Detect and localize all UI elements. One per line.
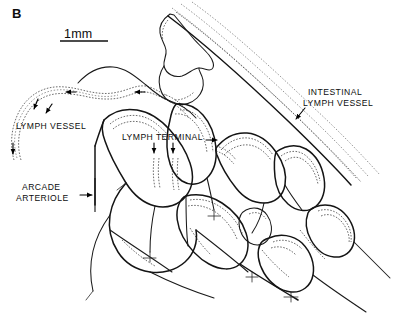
connecting-vessels — [86, 120, 390, 312]
vascular-network-drawing: B 1mm LYMPH VESSEL LYMPH TERMINAL ARCADE… — [0, 0, 395, 316]
network-cell-right-edge — [274, 146, 324, 211]
leader-intestinal-lymph-vessel — [296, 108, 305, 119]
figure-panel-b: B 1mm LYMPH VESSEL LYMPH TERMINAL ARCADE… — [0, 0, 395, 316]
network-cell-right-lower — [306, 205, 354, 257]
annotation-lymph-vessel: LYMPH VESSEL — [16, 121, 86, 131]
annotation-intestinal-line2: LYMPH VESSEL — [303, 98, 373, 108]
annotation-arcade-arteriole-line2: ARTERIOLE — [16, 193, 69, 203]
leader-lymph-vessel — [46, 104, 52, 113]
top-lobe-contour — [159, 14, 213, 105]
annotation-intestinal-line1: INTESTINAL — [308, 87, 362, 97]
leader-arcade-arteriole — [80, 178, 95, 212]
annotation-lymph-terminal: LYMPH TERMINAL — [122, 132, 203, 142]
network-cell-lower-middle — [177, 195, 248, 269]
network-cell-bottom-left — [91, 183, 197, 291]
network-cell-bottom-right — [258, 235, 313, 292]
lymph-terminals — [122, 146, 325, 277]
network-cell-central-left — [102, 109, 192, 206]
scale-bar-label: 1mm — [64, 27, 92, 41]
panel-label: B — [12, 6, 21, 21]
annotation-arcade-arteriole-line1: ARCADE — [22, 182, 61, 192]
